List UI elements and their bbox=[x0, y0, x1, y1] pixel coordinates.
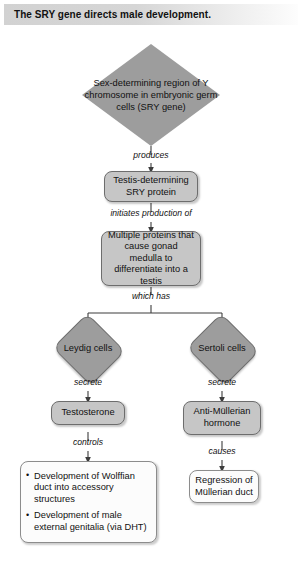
node-leydig-cells: Leydig cells bbox=[62, 325, 114, 372]
list-item: Development of male external genitalia (… bbox=[26, 510, 151, 533]
edge-label-causes: causes bbox=[182, 446, 262, 456]
node-multiple-proteins: Multiple proteins that cause gonad medul… bbox=[101, 231, 201, 286]
node-mullerian-regression: Regression of Müllerian duct bbox=[189, 470, 259, 503]
page-title: The SRY gene directs male development. bbox=[4, 9, 211, 20]
edge-label-secrete-right: secrete bbox=[182, 377, 262, 387]
edge-label-initiates-production: initiates production of bbox=[0, 208, 302, 218]
node-testosterone: Testosterone bbox=[51, 401, 125, 425]
edge-label-produces: produces bbox=[0, 150, 302, 160]
node-sry-gene: Sex-determining region of Y chromosome i… bbox=[82, 44, 220, 146]
edge-label-controls: controls bbox=[48, 437, 128, 447]
node-sry-protein: Testis-determining SRY protein bbox=[104, 171, 198, 202]
multiple-proteins-label: Multiple proteins that cause gonad medul… bbox=[107, 230, 195, 288]
node-wolffian-outcomes: Development of Wolffian duct into access… bbox=[20, 461, 157, 543]
sry-gene-label: Sex-determining region of Y chromosome i… bbox=[82, 44, 220, 146]
anti-mullerian-hormone-label: Anti-Müllerian hormone bbox=[189, 406, 255, 429]
node-anti-mullerian-hormone: Anti-Müllerian hormone bbox=[183, 401, 261, 435]
list-item: Development of Wolffian duct into access… bbox=[26, 471, 151, 505]
wolffian-outcomes-list: Development of Wolffian duct into access… bbox=[26, 471, 151, 533]
edge-label-secrete-left: secrete bbox=[48, 377, 128, 387]
testosterone-label: Testosterone bbox=[61, 407, 114, 419]
mullerian-regression-label: Regression of Müllerian duct bbox=[195, 475, 253, 498]
sry-protein-label: Testis-determining SRY protein bbox=[110, 175, 192, 198]
edge-label-which-has: which has bbox=[0, 291, 302, 301]
title-bar: The SRY gene directs male development. bbox=[4, 4, 298, 25]
leydig-cells-label: Leydig cells bbox=[62, 325, 114, 372]
sertoli-cells-label: Sertoli cells bbox=[196, 325, 248, 372]
node-sertoli-cells: Sertoli cells bbox=[196, 325, 248, 372]
